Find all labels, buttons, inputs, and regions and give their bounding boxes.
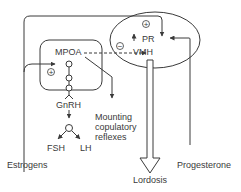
pr-label: PR [142, 34, 155, 44]
vmh-region [110, 12, 200, 68]
gnrh-pathway [58, 110, 80, 139]
lordosis-arrow [140, 60, 160, 173]
mpoa-mounting-arrow [85, 57, 112, 98]
mpoa-label: MPOA [55, 47, 82, 57]
mounting-label-2: copulatory [95, 122, 137, 132]
svg-text:−: − [118, 42, 123, 51]
mounting-label-1: Mounting [95, 112, 132, 122]
hormone-behavior-diagram: + + − MPOA PR VMH GnRH FSH LH Mounting c… [0, 0, 241, 192]
svg-text:+: + [144, 20, 149, 29]
lh-label: LH [80, 143, 92, 153]
plus-sign-mpoa: + [48, 68, 55, 77]
progesterone-label: Progesterone [177, 160, 231, 170]
plus-sign-pr: + [143, 20, 150, 29]
lordosis-label: Lordosis [133, 175, 168, 185]
mounting-label-3: reflexes [95, 132, 127, 142]
estrogens-label: Estrogens [7, 160, 48, 170]
neuron-chain [65, 61, 73, 99]
gnrh-label: GnRH [56, 100, 81, 110]
minus-sign-vmh: − [117, 42, 124, 51]
fsh-label: FSH [47, 143, 65, 153]
vmh-label: VMH [133, 47, 153, 57]
svg-text:+: + [49, 68, 54, 77]
